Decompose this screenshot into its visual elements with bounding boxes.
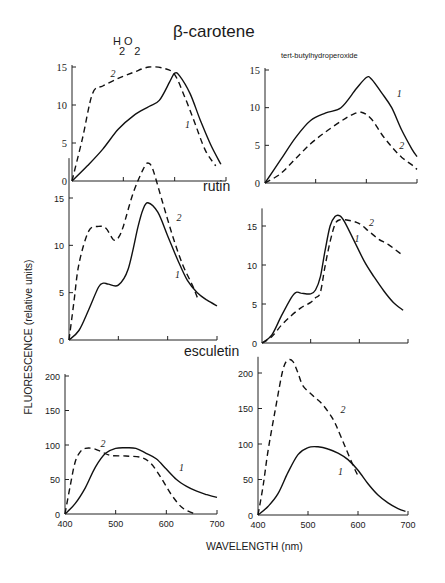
y-tick-label: 15 <box>57 62 68 73</box>
y-tick-label: 5 <box>62 138 67 149</box>
curve-1-solid <box>265 77 417 183</box>
curve-label-1: 1 <box>338 466 343 477</box>
curve-label-2: 2 <box>399 140 404 151</box>
y-tick-label: 100 <box>45 441 60 451</box>
panel-rutin-h2o2: 05101512 <box>54 158 217 345</box>
y-tick-label: 5 <box>255 140 260 151</box>
y-tick-label: 10 <box>250 102 261 113</box>
panel-beta-carotene-h2o2: 05101512 <box>57 62 227 187</box>
x-tick-label: 700 <box>400 520 415 530</box>
x-tick-label: 600 <box>350 520 365 530</box>
y-tick-label: 15 <box>247 222 257 232</box>
x-tick-label: 400 <box>57 519 72 529</box>
chart-grid: 0510151205101512051015120510151240050060… <box>0 0 445 583</box>
y-tick-label: 0 <box>59 336 64 346</box>
y-tick-label: 10 <box>57 100 68 111</box>
curve-label-1: 1 <box>179 462 184 473</box>
curve-label-2: 2 <box>369 217 374 228</box>
y-tick-label: 10 <box>247 261 257 271</box>
y-tick-label: 5 <box>252 300 257 310</box>
curve-1-solid <box>262 215 403 343</box>
y-tick-label: 50 <box>50 475 60 485</box>
y-tick-label: 15 <box>250 65 261 76</box>
y-tick-label: 15 <box>54 194 64 204</box>
panel-esculetin-tbhp: 40050060070005010015020012 <box>238 357 416 530</box>
curve-label-2: 2 <box>111 68 116 79</box>
x-tick-label: 400 <box>250 520 265 530</box>
curve-label-1: 1 <box>397 88 402 99</box>
curve-label-2: 2 <box>100 438 105 449</box>
x-tick-label: 500 <box>108 519 123 529</box>
x-tick-label: 500 <box>300 520 315 530</box>
curve-1-solid <box>258 447 406 515</box>
y-tick-label: 0 <box>55 510 60 520</box>
curve-1-solid <box>69 203 217 340</box>
curve-1-solid <box>65 448 217 514</box>
curve-2-dashed <box>262 220 403 343</box>
curve-2-dashed <box>72 67 216 181</box>
y-tick-label: 0 <box>255 178 260 189</box>
y-tick-label: 0 <box>248 511 253 521</box>
y-tick-label: 0 <box>62 176 67 187</box>
y-tick-label: 10 <box>54 241 64 251</box>
y-tick-label: 0 <box>252 339 257 349</box>
panel-rutin-tbhp: 05101512 <box>247 208 408 348</box>
y-tick-label: 150 <box>45 406 60 416</box>
panel-beta-carotene-tbhp: 05101512 <box>250 65 418 189</box>
y-tick-label: 5 <box>59 288 64 298</box>
curve-2-dashed <box>65 448 197 514</box>
y-tick-label: 200 <box>238 369 253 379</box>
curve-label-2: 2 <box>341 404 346 415</box>
curve-label-2: 2 <box>177 212 182 223</box>
x-tick-label: 700 <box>209 519 224 529</box>
x-tick-label: 600 <box>159 519 174 529</box>
curve-label-1: 1 <box>185 119 190 130</box>
curve-2-dashed <box>258 360 358 515</box>
y-tick-label: 50 <box>243 475 253 485</box>
y-tick-label: 200 <box>45 372 60 382</box>
curve-label-1: 1 <box>175 269 180 280</box>
curve-label-1: 1 <box>354 233 359 244</box>
panel-esculetin-h2o2: 40050060070005010015020012 <box>45 372 225 530</box>
y-tick-label: 150 <box>238 404 253 414</box>
y-tick-label: 100 <box>238 440 253 450</box>
